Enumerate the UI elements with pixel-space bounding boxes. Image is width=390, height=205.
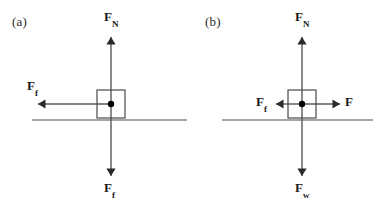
free-body-diagram-figure: (a) FNFfFf (b) FNFfFFw [0, 0, 390, 205]
panel-b: (b) FNFfFFw [195, 0, 390, 205]
weight-force-label: Fw [295, 181, 309, 198]
center-of-mass-dot [299, 101, 305, 107]
force-subscript: N [303, 19, 310, 29]
panel-a: (a) FNFfFf [0, 0, 195, 205]
force-symbol: F [27, 78, 35, 93]
weight-force-label: Ff [104, 181, 115, 198]
arrow-head [106, 37, 115, 45]
force-symbol: F [104, 180, 112, 195]
center-of-mass-dot [108, 101, 114, 107]
force-symbol: F [256, 94, 264, 109]
friction-force-label: Ff [27, 79, 38, 96]
force-subscript: w [303, 190, 310, 200]
force-subscript: f [35, 88, 38, 98]
arrow-head [276, 99, 284, 108]
arrow-head [297, 169, 306, 177]
normal-force-label: FN [104, 10, 118, 27]
force-subscript: f [264, 104, 267, 114]
arrow-head [38, 99, 46, 108]
arrow-head [297, 37, 306, 45]
force-symbol: F [104, 9, 112, 24]
force-symbol: F [295, 9, 303, 24]
force-subscript: f [112, 190, 115, 200]
normal-force-label: FN [295, 10, 309, 27]
arrow-head [333, 99, 341, 108]
force-symbol: F [345, 94, 353, 109]
applied-force-label: F [345, 95, 353, 108]
panel-b-vectors [195, 0, 390, 205]
arrow-head [106, 169, 115, 177]
friction-force-label: Ff [256, 95, 267, 112]
force-symbol: F [295, 180, 303, 195]
panel-a-vectors [0, 0, 195, 205]
force-subscript: N [112, 19, 119, 29]
